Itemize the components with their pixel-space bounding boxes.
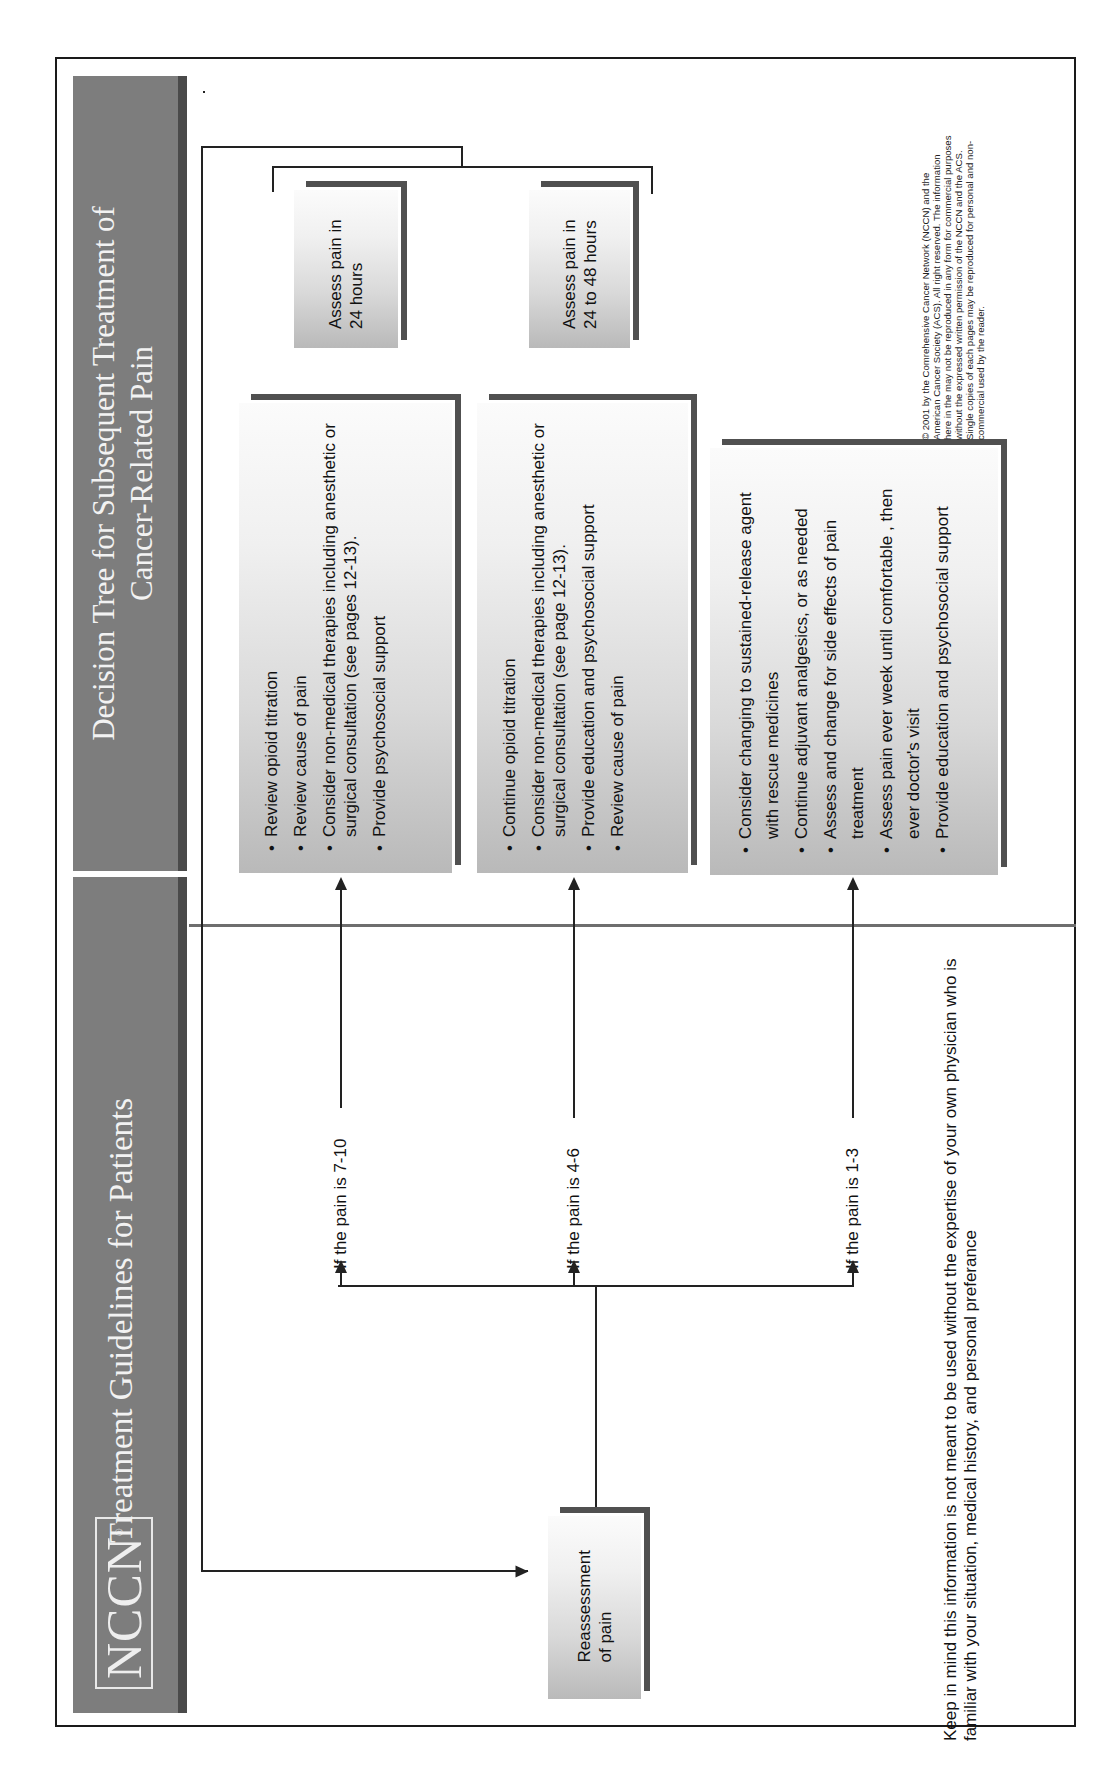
action-item: Continue opioid titration xyxy=(499,419,520,851)
reassessment-text: Reassessment of pain xyxy=(574,1553,616,1663)
page-title-line1: Decision Tree for Subsequent Treatment o… xyxy=(85,76,123,871)
box-shadow-edge xyxy=(1001,439,1007,867)
branch-line-severe xyxy=(340,888,342,1108)
followup-text: Assess pain in 24 hours xyxy=(325,209,367,329)
action-item: Assess pain ever week until comfortable … xyxy=(873,462,927,853)
loop-line-right xyxy=(201,146,463,148)
action-item: Consider non-medical therapies including… xyxy=(319,419,361,851)
condition-label-severe: If the pain is 7-10 xyxy=(331,1139,351,1269)
box-shadow-edge xyxy=(401,181,407,340)
arrow-right-icon xyxy=(568,877,580,890)
branch-line-mild xyxy=(852,888,854,1118)
action-list: Consider changing to sustained-release a… xyxy=(732,462,956,853)
copyright-notice: © 2001 by the Comrehensive Cancer Networ… xyxy=(920,135,986,440)
box-shadow-edge xyxy=(691,394,697,865)
loop-line-top xyxy=(203,91,205,93)
box-shadow-edge xyxy=(306,181,407,187)
fork-stem xyxy=(595,1285,597,1510)
condition-label-mild: If the pain is 1-3 xyxy=(843,1148,863,1269)
box-shadow-edge xyxy=(633,181,639,340)
action-item: Provide education and psychosocial suppo… xyxy=(929,462,956,853)
reassessment-line: of pain xyxy=(595,1553,616,1663)
header-band-right: Decision Tree for Subsequent Treatment o… xyxy=(73,76,178,871)
box-shadow-edge xyxy=(541,181,639,187)
arrow-right-icon xyxy=(847,877,859,890)
bracket-leg-1 xyxy=(272,166,274,192)
action-item: Provide psychosocial support xyxy=(369,419,390,851)
bracket-leg-2 xyxy=(651,166,653,194)
action-item: Consider non-medical therapies including… xyxy=(528,419,570,851)
box-shadow-edge xyxy=(644,1507,650,1691)
action-item: Review opioid titration xyxy=(261,419,282,851)
page-title-line2: Cancer-Related Pain xyxy=(123,76,161,871)
action-item: Consider changing to sustained-release a… xyxy=(732,462,786,853)
arrow-right-icon xyxy=(335,877,347,890)
reassessment-box: Reassessment of pain xyxy=(548,1516,641,1699)
action-box-moderate: Continue opioid titration Consider non-m… xyxy=(477,403,688,873)
loop-line-connector xyxy=(461,146,463,168)
box-shadow-edge xyxy=(489,394,697,400)
disclaimer-note: Keep in mind this information is not mea… xyxy=(941,941,981,1741)
nccn-logo: NCCN® xyxy=(95,1517,153,1689)
followup-box-24h: Assess pain in 24 hours xyxy=(294,190,398,348)
series-title: Treatment Guidelines for Patients xyxy=(103,1098,140,1543)
action-box-mild: Consider changing to sustained-release a… xyxy=(710,448,998,875)
fork-stub-moderate xyxy=(573,1271,575,1287)
branch-line-moderate xyxy=(573,888,575,1118)
action-item: Continue adjuvant analgesics, or as need… xyxy=(788,462,815,853)
box-shadow-edge xyxy=(560,1507,650,1513)
action-item: Review cause of pain xyxy=(290,419,311,851)
header-band-left: NCCN® Treatment Guidelines for Patients xyxy=(73,877,178,1713)
action-box-severe: Review opioid titration Review cause of … xyxy=(239,403,452,873)
box-shadow-edge xyxy=(251,394,461,400)
loop-line-down xyxy=(201,1570,528,1572)
arrow-to-reassessment-icon xyxy=(516,1566,529,1578)
reassessment-line: Reassessment xyxy=(574,1553,595,1663)
fork-stub-mild xyxy=(852,1271,854,1287)
page-title: Decision Tree for Subsequent Treatment o… xyxy=(85,76,161,871)
logo-text: NCCN xyxy=(96,1536,152,1679)
followup-line: Assess pain in xyxy=(559,209,580,329)
followup-text: Assess pain in 24 to 48 hours xyxy=(559,209,601,329)
action-item: Provide education and psychosocial suppo… xyxy=(578,419,599,851)
action-list: Review opioid titration Review cause of … xyxy=(261,419,390,851)
section-divider xyxy=(189,924,1076,927)
action-list: Continue opioid titration Consider non-m… xyxy=(499,419,628,851)
action-item: Assess and change for side effects of pa… xyxy=(817,462,871,853)
condition-label-moderate: If the pain is 4-6 xyxy=(564,1148,584,1269)
bracket-bar xyxy=(272,166,653,168)
followup-line: 24 hours xyxy=(346,209,367,329)
followup-box-24-48h: Assess pain in 24 to 48 hours xyxy=(529,190,630,348)
action-item: Review cause of pain xyxy=(607,419,628,851)
fork-stub-severe xyxy=(340,1271,342,1287)
followup-line: 24 to 48 hours xyxy=(580,209,601,329)
followup-line: Assess pain in xyxy=(325,209,346,329)
loop-line-long xyxy=(201,146,203,1572)
decision-tree-page: NCCN® Treatment Guidelines for Patients … xyxy=(55,57,1076,1727)
box-shadow-edge xyxy=(455,394,461,865)
